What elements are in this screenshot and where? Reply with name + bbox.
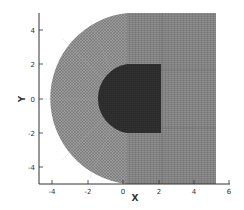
svg-text:-4: -4 [28, 164, 36, 172]
x-tick-labels: -4 -2 0 2 4 6 [49, 188, 232, 196]
y-axis-title: Y [17, 95, 27, 103]
svg-text:6: 6 [227, 188, 232, 196]
svg-text:4: 4 [192, 188, 197, 196]
y-ticks [39, 30, 43, 167]
svg-text:0: 0 [31, 96, 35, 104]
x-axis-title: X [132, 193, 139, 203]
svg-text:-4: -4 [49, 188, 57, 196]
svg-text:4: 4 [31, 27, 36, 35]
svg-text:-2: -2 [28, 130, 35, 138]
svg-text:-2: -2 [85, 188, 92, 196]
svg-text:2: 2 [31, 61, 35, 69]
svg-text:0: 0 [121, 188, 125, 196]
svg-text:2: 2 [157, 188, 161, 196]
y-tick-labels: 4 2 0 -2 -4 [28, 27, 36, 172]
mesh-plot: -4 -2 0 2 4 6 4 2 0 -2 -4 X Y [0, 0, 244, 210]
